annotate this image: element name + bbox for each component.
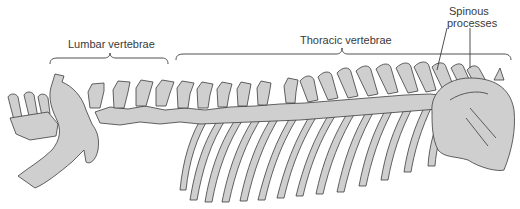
lumbar-spinous-processes	[88, 80, 174, 108]
thoracic-vertebrae-label: Thoracic vertebrae	[300, 34, 392, 46]
spinous-processes-label-line2: processes	[447, 17, 497, 29]
skeleton-illustration	[0, 0, 520, 209]
lumbar-vertebrae-label: Lumbar vertebrae	[68, 38, 155, 50]
lumbar-bracket	[50, 53, 168, 64]
thoracic-bracket	[176, 48, 511, 60]
anatomy-figure: Lumbar vertebrae Thoracic vertebrae Spin…	[0, 0, 520, 209]
spinous-processes-label-line1: Spinous	[449, 5, 489, 17]
